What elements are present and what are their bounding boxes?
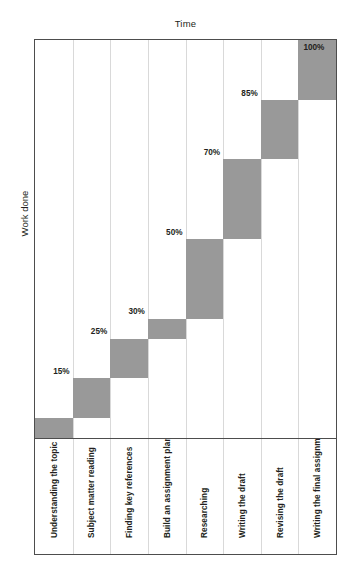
bar[interactable]: 5% [35,418,73,438]
category-cell: Writing the final assignment [298,439,336,554]
bar-value-label: 30% [128,308,144,316]
x-axis-title: Time [34,18,337,29]
category-cell: Subject matter reading [73,439,111,554]
bar-value-label: 85% [241,90,257,98]
bar-column: 100% [298,40,336,438]
bar[interactable]: 100% [298,40,336,100]
category-cell: Build an assignment plan [148,439,186,554]
category-cell: Writing the draft [223,439,261,554]
bar-value-label: 15% [53,368,69,376]
bar-column: 50% [186,40,224,438]
category-label: Build an assignment plan [162,439,171,538]
bar[interactable]: 85% [261,100,299,160]
category-label: Writing the draft [237,473,246,538]
bar-value-label: 25% [91,328,107,336]
bar[interactable]: 30% [148,319,186,339]
bar-value-label: 100% [303,44,324,52]
category-cell: Revising the draft [261,439,299,554]
bar[interactable]: 70% [223,159,261,239]
bar-column: 85% [261,40,299,438]
category-cell: Researching [186,439,224,554]
category-label: Subject matter reading [87,447,96,538]
bar-column: 25% [110,40,148,438]
category-columns: Understanding the topicSubject matter re… [35,439,336,554]
category-label: Revising the draft [275,467,284,538]
bar[interactable]: 15% [73,378,111,418]
bar-column: 5% [35,40,73,438]
bar[interactable]: 25% [110,339,148,379]
chart-frame: 5%15%25%30%50%70%85%100% Understanding t… [34,39,337,555]
bar-value-label: 70% [204,149,220,157]
plot-area: 5%15%25%30%50%70%85%100% [35,40,336,439]
bar-column: 70% [223,40,261,438]
category-label: Writing the final assignment [313,439,322,538]
category-label: Researching [200,488,209,538]
bar-column: 30% [148,40,186,438]
category-cell: Finding key references [110,439,148,554]
category-label-strip: Understanding the topicSubject matter re… [35,439,336,554]
category-label: Understanding the topic [49,442,58,538]
category-label: Finding key references [125,447,134,538]
bar[interactable]: 50% [186,239,224,319]
chart-page: Time Work done 5%15%25%30%50%70%85%100% … [0,0,357,580]
category-cell: Understanding the topic [35,439,73,554]
bar-columns: 5%15%25%30%50%70%85%100% [35,40,336,438]
bar-value-label: 50% [166,229,182,237]
y-axis-title: Work done [19,174,30,254]
bar-column: 15% [73,40,111,438]
